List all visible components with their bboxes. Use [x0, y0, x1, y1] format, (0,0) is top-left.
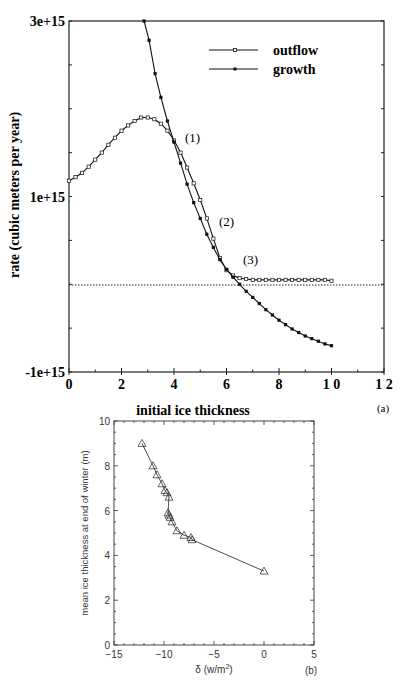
panel-a-y-axis-label: rate (cubic meters per year)	[7, 112, 23, 278]
open-triangle-marker-icon	[260, 567, 268, 574]
legend-growth-label: growth	[273, 62, 316, 77]
y-tick-label: 10	[99, 416, 111, 427]
open-square-marker-icon	[199, 198, 202, 201]
open-square-marker-icon	[271, 278, 274, 281]
panel-a-chart: -1e+151e+153e+15 024681 01 2 outflow gro…	[7, 14, 393, 418]
x-tick-label: −5	[208, 649, 220, 660]
open-square-marker-icon	[81, 171, 84, 174]
filled-square-marker-icon	[218, 258, 221, 261]
filled-square-marker-icon	[271, 313, 274, 316]
y-tick-label: 8	[104, 461, 110, 472]
open-square-marker-icon	[284, 278, 287, 281]
x-tick-label: 2	[118, 377, 125, 392]
filled-square-marker-icon	[192, 201, 195, 204]
panel-b-frame	[114, 421, 314, 645]
open-square-marker-icon	[245, 277, 248, 280]
filled-square-marker-icon	[147, 39, 150, 42]
open-square-marker-icon	[264, 278, 267, 281]
open-triangle-marker-icon	[138, 439, 146, 446]
x-tick-label: 1 2	[375, 377, 393, 392]
panel-b-series	[138, 439, 268, 574]
open-square-marker-icon	[186, 166, 189, 169]
panel-a-y-ticks: -1e+151e+153e+15	[25, 14, 384, 380]
open-square-marker-icon	[297, 278, 300, 281]
annotation-2: (2)	[219, 214, 234, 229]
filled-square-marker-icon	[238, 283, 241, 286]
filled-square-marker-icon	[172, 140, 175, 143]
y-tick-label: 2	[104, 595, 110, 606]
open-square-marker-icon	[192, 182, 195, 185]
open-square-marker-icon	[133, 119, 136, 122]
x-tick-label: −15	[106, 649, 123, 660]
open-square-marker-icon	[179, 151, 182, 154]
open-square-marker-icon	[323, 278, 326, 281]
filled-square-marker-icon	[231, 276, 234, 279]
legend-item-outflow: outflow	[209, 43, 319, 58]
annotation-1: (1)	[185, 130, 200, 145]
x-tick-label: 4	[171, 377, 178, 392]
x-tick-label: −10	[156, 649, 173, 660]
thickness-line	[142, 443, 264, 571]
filled-square-marker-icon	[277, 319, 280, 322]
x-tick-label: 0	[261, 649, 267, 660]
open-square-marker-icon	[87, 165, 90, 168]
open-square-marker-icon	[212, 237, 215, 240]
open-square-marker-icon	[153, 118, 156, 121]
x-tick-label: 8	[276, 377, 283, 392]
y-tick-label: 6	[104, 506, 110, 517]
filled-square-marker-icon	[297, 331, 300, 334]
open-square-marker-icon	[146, 116, 149, 119]
open-square-marker-icon	[94, 158, 97, 161]
x-tick-label: 5	[311, 649, 317, 660]
filled-square-marker-icon	[310, 337, 313, 340]
filled-square-marker-icon	[142, 19, 145, 22]
panel-b-y-axis-label: mean ice thickness at end of winter (m)	[79, 450, 90, 615]
panel-a-tag: (a)	[377, 402, 390, 415]
filled-square-marker-icon	[205, 233, 208, 236]
panel-b-chart: 0246810 −15−10−505 δ (w/m2) mean ice thi…	[79, 416, 317, 676]
panel-a-frame	[69, 21, 384, 372]
filled-square-marker-icon	[212, 246, 215, 249]
open-square-marker-icon	[304, 278, 307, 281]
open-square-marker-icon	[120, 129, 123, 132]
x-tick-label: 6	[223, 377, 230, 392]
open-square-marker-icon	[74, 176, 77, 179]
filled-square-marker-icon	[245, 290, 248, 293]
open-square-marker-icon	[205, 217, 208, 220]
open-square-marker-icon	[107, 143, 110, 146]
filled-square-marker-icon	[330, 344, 333, 347]
filled-square-marker-icon	[225, 268, 228, 271]
open-square-marker-icon	[251, 278, 254, 281]
filled-square-marker-icon	[317, 340, 320, 343]
panel-b-x-axis-label: δ (w/m2)	[195, 663, 232, 675]
filled-square-marker-icon	[179, 162, 182, 165]
panel-b-x-ticks: −15−10−505	[106, 421, 318, 660]
open-square-marker-icon	[317, 278, 320, 281]
open-square-marker-icon	[126, 124, 129, 127]
filled-square-marker-icon	[258, 302, 261, 305]
filled-square-marker-icon	[159, 96, 162, 99]
open-square-marker-icon	[113, 136, 116, 139]
filled-square-marker-icon	[166, 119, 169, 122]
x-tick-label: 1 0	[323, 377, 341, 392]
filled-square-marker-icon	[323, 342, 326, 345]
filled-square-marker-icon	[234, 68, 237, 71]
filled-square-marker-icon	[154, 72, 157, 75]
open-square-marker-icon	[291, 278, 294, 281]
open-square-marker-icon	[166, 129, 169, 132]
y-tick-label: -1e+15	[25, 365, 65, 380]
panel-b-y-ticks: 0246810	[99, 416, 314, 651]
filled-square-marker-icon	[284, 323, 287, 326]
open-square-marker-icon	[310, 278, 313, 281]
annotation-3: (3)	[243, 252, 258, 267]
open-square-marker-icon	[277, 278, 280, 281]
panel-b-tag: (b)	[305, 665, 317, 676]
open-square-marker-icon	[140, 116, 143, 119]
filled-square-marker-icon	[291, 327, 294, 330]
y-tick-label: 4	[104, 550, 110, 561]
filled-square-marker-icon	[199, 217, 202, 220]
open-square-marker-icon	[258, 278, 261, 281]
panel-a-x-axis-label: initial ice thickness	[136, 403, 250, 418]
y-tick-label: 1e+15	[30, 190, 65, 205]
legend-item-growth: growth	[209, 62, 316, 77]
